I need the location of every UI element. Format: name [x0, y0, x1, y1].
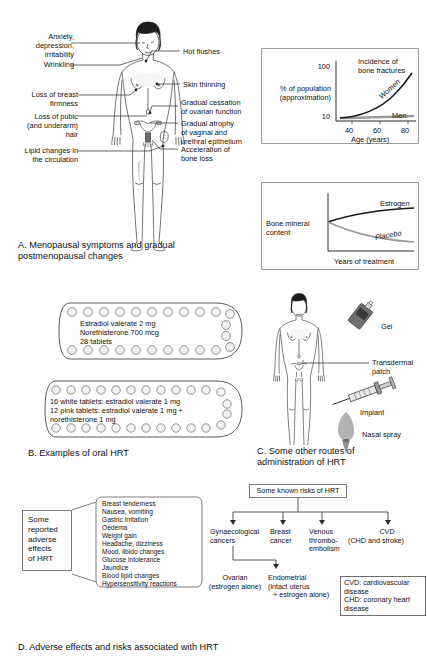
label-transdermal-patch: Transdermal patch [372, 358, 427, 376]
chart1-xtick-80: 80 [401, 126, 409, 135]
adverse-effect-item: Breast tenderness [102, 500, 202, 508]
risk-endometrial: Endometrial (intact uterus + estrogen al… [268, 574, 338, 600]
adverse-effects-list: Breast tenderness Nausea, vomiting Gastr… [102, 500, 202, 588]
adverse-effect-item: Headache, dizziness [102, 540, 202, 548]
adverse-effect-item: Mood, libido changes [102, 548, 202, 556]
risks-root-label: Some known risks of HRT [257, 487, 340, 496]
adverse-effect-item: Nausea, vomiting [102, 508, 202, 516]
chart-bone-mineral-content: Bone mineral content Estrogen Placebo Ye… [261, 182, 419, 270]
risk-ovarian-line2: (estrogen alone) [204, 583, 266, 592]
chart1-ylabel-line1: % of population [265, 84, 331, 93]
chart2-series-estrogen: Estrogen [380, 199, 410, 208]
panel-c: Gel Transdermal patch Implant [250, 288, 427, 473]
chart2-ylabel-line2: content [266, 228, 324, 237]
risk-endometrial-line3: + estrogen alone) [268, 591, 338, 600]
chart1-title-text: Incidence of bone fractures [358, 57, 405, 75]
adverse-effect-item: Oedema [102, 524, 202, 532]
label-ovarian-cessation: Gradual cessation of ovarian function [181, 98, 251, 116]
adverse-title-line3: adverse [28, 535, 67, 545]
implant-syringe-icon [328, 376, 400, 406]
panel-b: Estradiol valerate 2 mg Norethisterone 7… [0, 292, 258, 467]
adverse-effect-item: Jaundice [102, 564, 202, 572]
panel-a-caption-line2: postmenopausal changes [18, 251, 238, 262]
pill-pack-1: Estradiol valerate 2 mg Norethisterone 7… [58, 302, 244, 360]
panel-a-caption: A. Menopausal symptoms and gradual postm… [18, 240, 238, 263]
chart-bone-fractures: % of population (approximation) 100 10 I… [261, 48, 419, 144]
gel-icon [345, 298, 379, 332]
pill-pack-1-text: Estradiol valerate 2 mg Norethisterone 7… [80, 319, 210, 347]
adverse-effects-list-box: Breast tenderness Nausea, vomiting Gastr… [92, 496, 204, 588]
label-nasal-spray: Nasal spray [362, 430, 401, 439]
label-bone-loss: Acceleration of bone loss [181, 145, 251, 163]
chart2-ylabel: Bone mineral content [266, 219, 324, 237]
adverse-title-line4: effects [28, 544, 67, 554]
panel-c-caption: C. Some other routes of administration o… [257, 446, 407, 469]
risk-breast-line2: cancer [270, 537, 306, 546]
risks-flowchart: Some known risks of HRT [210, 484, 425, 614]
label-skin-thinning: Skin thinning [183, 80, 249, 89]
panel-b-caption: B. Examples of oral HRT [28, 448, 129, 459]
pack1-line3: 28 tablets [80, 337, 210, 346]
label-hot-flushes: Hot flushes [183, 47, 249, 56]
chart1-xtick-40: 40 [345, 126, 353, 135]
chart1-xtick-60: 60 [373, 126, 381, 135]
panel-d-caption: D. Adverse effects and risks associated … [18, 642, 218, 653]
label-vaginal-atrophy: Gradual atrophy of vaginal and urethral … [181, 119, 251, 146]
label-loss-pubic-hair: Loss of pubic (and underarm) hair [6, 112, 78, 139]
chart1-ytick-100: 100 [308, 62, 330, 71]
key-chd: CHD: coronary heart disease [344, 596, 422, 613]
panel-a-caption-line1: A. Menopausal symptoms and gradual [18, 240, 238, 251]
transdermal-patch-leader [297, 356, 377, 370]
adverse-effects-title-box: Some reported adverse effects of HRT [22, 510, 72, 571]
chart1-xlabel: Age (years) [351, 135, 389, 144]
chart2-xlabel: Years of treatment [334, 257, 394, 266]
pill-pack-2: 16 white tablets: estradiol valerate 1 m… [44, 380, 244, 438]
pack2-line3: norethisterone 1 mg [50, 415, 226, 424]
label-lipid-changes: Lipid changes in the circulation [2, 146, 78, 164]
panel-c-caption-line2: administration of HRT [257, 457, 407, 468]
label-wrinkling: Wrinkling [20, 60, 74, 69]
chart1-ytick-10: 10 [308, 112, 330, 121]
risks-root-box: Some known risks of HRT [249, 484, 347, 498]
adverse-title-line2: reported [28, 525, 67, 535]
risk-gynae-cancers: Gynaecological cancers [210, 528, 268, 545]
pack2-line2: 12 pink tablets: estradiol valerate 1 mg… [50, 406, 226, 415]
risk-ovarian: Ovarian (estrogen alone) [204, 574, 266, 591]
panel-c-caption-line1: C. Some other routes of [257, 446, 407, 457]
panel-a: Anxiety, depression, irritability Wrinkl… [0, 18, 250, 288]
risk-cvd: CVD (CHD and stroke) [348, 528, 426, 545]
adverse-title-line1: Some [28, 515, 67, 525]
chart1-ylabel: % of population (approximation) [265, 84, 331, 102]
chart1-title: Incidence of bone fractures [358, 57, 416, 76]
chart2-ylabel-line1: Bone mineral [266, 219, 324, 228]
abbreviation-key-box: CVD: cardiovascular disease CHD: coronar… [340, 576, 426, 616]
chart1-series-men: Men [392, 111, 406, 120]
pack1-line2: Norethisterone 700 mcg [80, 328, 210, 337]
risk-gynae-line2: cancers [210, 537, 268, 546]
key-cvd: CVD: cardiovascular disease [344, 579, 422, 596]
adverse-effect-item: Glucose intolerance [102, 556, 202, 564]
adverse-title-line5: of HRT [28, 554, 67, 564]
adverse-effect-item: Blood lipid changes [102, 572, 202, 580]
label-gel: Gel [381, 322, 393, 331]
risk-cvd-line2: (CHD and stroke) [348, 537, 426, 546]
figure-root: Anxiety, depression, irritability Wrinkl… [0, 0, 427, 664]
adverse-effect-item: Hypersensitivity reactions [102, 580, 202, 588]
pill-pack-2-text: 16 white tablets: estradiol valerate 1 m… [50, 397, 226, 425]
label-loss-breast-firmness: Loss of breast firmness [10, 90, 78, 108]
label-anxiety: Anxiety, depression, irritability [22, 32, 74, 59]
panel-d: Some reported adverse effects of HRT Bre… [0, 472, 427, 664]
adverse-effect-item: Gastric irritation [102, 516, 202, 524]
chart1-ylabel-line2: (approximation) [265, 93, 331, 102]
pack1-line1: Estradiol valerate 2 mg [80, 319, 210, 328]
adverse-effect-item: Weight gain [102, 532, 202, 540]
pack2-line1: 16 white tablets: estradiol valerate 1 m… [50, 397, 226, 406]
risk-breast-cancer: Breast cancer [270, 528, 306, 545]
